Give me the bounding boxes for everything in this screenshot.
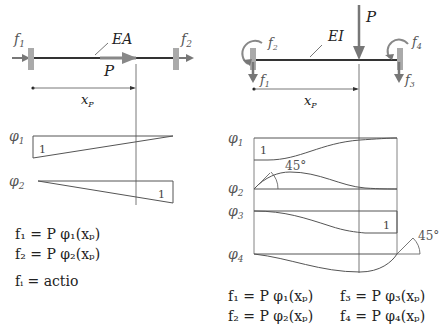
right-support bbox=[173, 48, 179, 70]
formula-right-3: f₃ = P φ₃(xₚ) bbox=[340, 288, 425, 304]
formula-right-2: f₂ = P φ₂(xₚ) bbox=[228, 308, 313, 324]
phi3-beam-label: φ3 bbox=[228, 203, 244, 221]
phi2-curve bbox=[254, 172, 397, 189]
phi1-label: φ1 bbox=[9, 128, 25, 146]
axial-bar-diagram bbox=[12, 43, 192, 205]
ea-label: EA bbox=[111, 31, 132, 47]
phi1-unit: 1 bbox=[39, 143, 46, 156]
phi1-shape bbox=[33, 136, 173, 158]
ei-label: EI bbox=[327, 28, 344, 44]
phi1-curve bbox=[254, 138, 397, 160]
phi3-curve bbox=[254, 211, 397, 233]
f3-beam-label: f3 bbox=[404, 72, 415, 89]
phi2-label: φ2 bbox=[9, 173, 25, 191]
phi2-beam-label: φ2 bbox=[228, 180, 244, 198]
formula-left-3: fᵢ = actio bbox=[15, 273, 78, 289]
f1-label: f1 bbox=[13, 31, 25, 49]
load-arrow-p bbox=[122, 52, 137, 64]
formula-left-2: f₂ = P φ₂(xₚ) bbox=[15, 246, 100, 262]
phi2-angle-label: 45° bbox=[285, 159, 306, 173]
xp-beam-label: xP bbox=[304, 93, 317, 110]
phi4-curve bbox=[254, 254, 397, 272]
ea-leader bbox=[95, 43, 108, 55]
f1-beam-label: f1 bbox=[259, 72, 270, 89]
f2-label: f2 bbox=[180, 31, 192, 49]
xp-label: xP bbox=[81, 92, 94, 109]
formula-left-1: f₁ = P φ₁(xₚ) bbox=[15, 226, 100, 242]
phi3-beam-unit: 1 bbox=[383, 219, 390, 232]
f2-beam-label: f2 bbox=[267, 35, 278, 52]
ei-leader bbox=[310, 45, 322, 57]
load-label-p-beam: P bbox=[365, 8, 377, 26]
load-label-p: P bbox=[103, 62, 115, 80]
phi1-beam-label: φ1 bbox=[228, 130, 244, 148]
phi4-angle-label: 45° bbox=[418, 229, 439, 243]
phi4-beam-label: φ4 bbox=[228, 246, 244, 264]
phi2-unit: 1 bbox=[158, 188, 165, 201]
phi1-beam-unit: 1 bbox=[260, 144, 267, 157]
left-support bbox=[28, 48, 34, 70]
formula-right-4: f₄ = P φ₄(xₚ) bbox=[340, 308, 425, 324]
formula-right-1: f₁ = P φ₁(xₚ) bbox=[228, 288, 313, 304]
f4-beam-label: f4 bbox=[411, 34, 422, 51]
phi2-shape bbox=[38, 181, 173, 203]
load-arrow-p-beam bbox=[353, 46, 365, 60]
